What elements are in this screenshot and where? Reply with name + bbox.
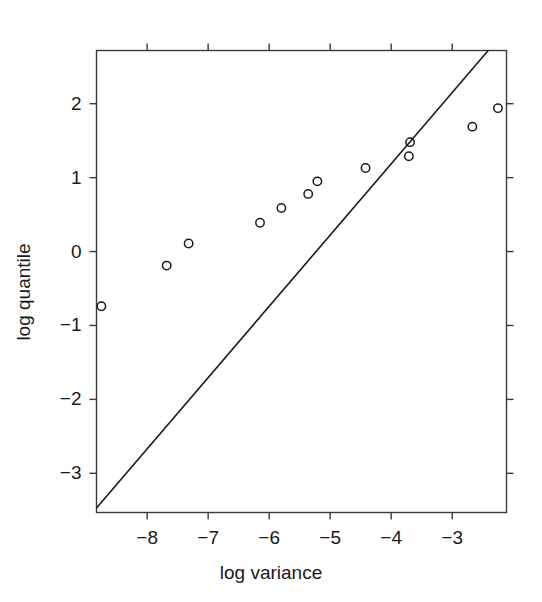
x-axis-title: log variance (0, 562, 542, 584)
y-axis-tick-label: 2 (28, 93, 82, 115)
y-axis-tick-label: −2 (28, 388, 82, 410)
y-axis-tick-label: −1 (28, 314, 82, 336)
plot-frame (97, 51, 507, 513)
x-axis-tick-label: −5 (319, 527, 341, 549)
plot-canvas (0, 0, 542, 602)
x-axis-tick-label: −8 (136, 527, 158, 549)
y-axis-tick-label: −3 (28, 462, 82, 484)
x-axis-tick-label: −6 (258, 527, 280, 549)
x-axis-tick-label: −4 (380, 527, 402, 549)
x-axis-tick-label: −7 (197, 527, 219, 549)
y-axis-title: log quantile (13, 222, 35, 362)
y-axis-tick-label: 1 (28, 167, 82, 189)
x-axis-tick-label: −3 (441, 527, 463, 549)
y-axis-tick-label: 0 (28, 241, 82, 263)
scatter-plot: −8−7−6−5−4−3−3−2−1012 log variance log q… (0, 0, 542, 602)
